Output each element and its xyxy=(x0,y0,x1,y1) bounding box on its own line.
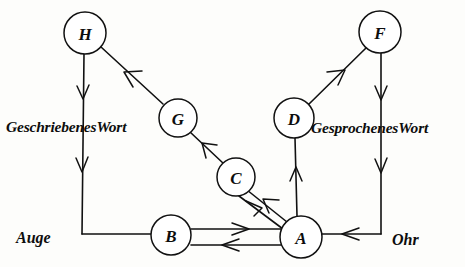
label-eye: Auge xyxy=(15,229,51,247)
node-label-F: F xyxy=(373,24,386,43)
node-F[interactable]: F xyxy=(359,11,401,53)
node-label-G: G xyxy=(172,110,185,129)
node-label-D: D xyxy=(287,110,300,129)
node-D[interactable]: D xyxy=(274,98,314,138)
edge-H-to-auge xyxy=(76,54,89,234)
edge-line-H-auge xyxy=(82,54,84,234)
label-spoken-word: GesprochenesWort xyxy=(311,119,429,136)
edge-G-to-H xyxy=(101,47,163,104)
diagram-svg: H F G D C B A GeschriebenesWort Gesp xyxy=(0,0,465,267)
edge-A-to-B xyxy=(191,239,281,251)
arrowhead-G-H xyxy=(124,71,142,87)
label-ear: Ohr xyxy=(392,231,419,248)
arrowhead-A-C xyxy=(263,199,279,213)
edge-line-C-G xyxy=(190,132,224,164)
node-label-C: C xyxy=(230,169,242,188)
node-A[interactable]: A xyxy=(280,216,322,258)
node-label-H: H xyxy=(77,25,92,44)
edge-A-to-D xyxy=(290,138,302,216)
edge-D-to-F xyxy=(308,48,366,105)
edge-line-G-H xyxy=(101,47,163,104)
diagram-canvas: H F G D C B A GeschriebenesWort Gesp xyxy=(0,0,465,267)
edge-F-to-ohr xyxy=(375,53,387,234)
edge-line-D-F xyxy=(308,48,366,105)
node-G[interactable]: G xyxy=(159,99,197,137)
edge-ohr-to-A xyxy=(322,228,381,240)
label-written-word: GeschriebenesWort xyxy=(6,118,127,135)
edge-B-to-A xyxy=(191,223,281,235)
node-B[interactable]: B xyxy=(151,215,191,255)
edge-line-A-D xyxy=(295,138,297,216)
node-label-B: B xyxy=(164,227,176,246)
node-label-A: A xyxy=(294,229,306,248)
node-C[interactable]: C xyxy=(217,158,255,196)
edge-C-to-G xyxy=(190,132,224,164)
node-H[interactable]: H xyxy=(64,12,106,54)
